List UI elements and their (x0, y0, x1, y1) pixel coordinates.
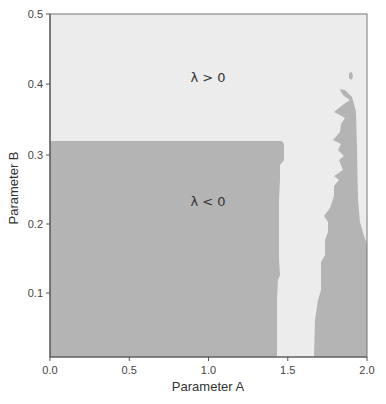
svg-text:0.0: 0.0 (42, 364, 57, 376)
svg-text:1.5: 1.5 (280, 364, 295, 376)
svg-text:0.1: 0.1 (28, 287, 43, 299)
svg-text:0.3: 0.3 (28, 149, 43, 161)
positive-region-label: λ > 0 (190, 70, 225, 85)
svg-text:1.0: 1.0 (201, 364, 216, 376)
svg-text:0.5: 0.5 (122, 364, 137, 376)
y-tick-labels: 0.1 0.2 0.3 0.4 0.5 (28, 8, 43, 299)
y-axis-label: Parameter B (6, 152, 21, 225)
x-tick-labels: 0.0 0.5 1.0 1.5 2.0 (42, 364, 374, 376)
svg-text:2.0: 2.0 (359, 364, 374, 376)
negative-region-label: λ < 0 (190, 194, 225, 209)
region-chart: 0.0 0.5 1.0 1.5 2.0 0.1 0.2 0.3 0.4 0.5 … (0, 0, 386, 404)
svg-text:0.5: 0.5 (28, 8, 43, 20)
x-axis-label: Parameter A (172, 379, 245, 394)
negative-region-main (50, 141, 284, 357)
svg-text:0.4: 0.4 (28, 78, 43, 90)
svg-text:0.2: 0.2 (28, 218, 43, 230)
